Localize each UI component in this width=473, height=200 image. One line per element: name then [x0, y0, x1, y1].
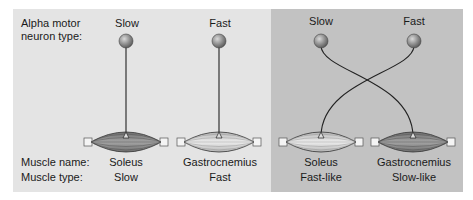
muscle-type-slow: Slow	[114, 171, 138, 184]
fast-neuron-soma-icon	[212, 34, 226, 48]
muscle-type-fast-like: Fast-like	[300, 171, 342, 184]
fast-neuron-soma-icon	[407, 34, 421, 48]
axon-fast-cross	[321, 46, 414, 136]
neuron-type-slow: Slow	[115, 17, 139, 30]
slow-neuron-soma-icon	[119, 34, 133, 48]
neuron-type-slow-cross: Slow	[309, 15, 333, 28]
slow-neuron-soma-icon	[314, 34, 328, 48]
neuron-type-fast-cross: Fast	[403, 15, 424, 28]
muscle-type-label: Muscle type:	[21, 171, 83, 184]
muscle-name-soleus-cross: Soleus	[304, 156, 338, 169]
neuron-type-label-line1: Alpha motor	[21, 17, 80, 30]
neuron-type-fast: Fast	[209, 17, 230, 30]
muscle-name-gastrocnemius: Gastrocnemius	[183, 156, 257, 169]
muscle-type-slow-like: Slow-like	[392, 171, 436, 184]
muscle-name-soleus: Soleus	[109, 156, 143, 169]
axon-slow-cross	[321, 46, 413, 136]
muscle-name-label: Muscle name:	[21, 156, 89, 169]
neuron-type-label-line2: neuron type:	[21, 30, 82, 43]
muscle-name-gastrocnemius-cross: Gastrocnemius	[377, 156, 451, 169]
muscle-type-fast: Fast	[209, 171, 230, 184]
